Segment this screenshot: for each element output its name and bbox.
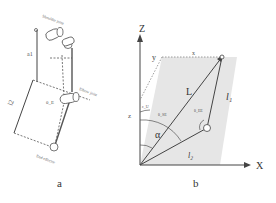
shoulder-joint-label: Shoulder joint bbox=[42, 13, 66, 26]
z-dim-label: z bbox=[128, 112, 131, 120]
end-effector-label: End effector bbox=[36, 153, 57, 165]
upper-arm-label: a1 bbox=[27, 51, 33, 57]
elbow-angle-label: θ_E bbox=[46, 100, 54, 105]
theta-ee-label: θ_EE bbox=[194, 108, 203, 113]
elbow-joint-label: Elbow joint bbox=[79, 86, 99, 97]
theta-u-label: ε_U bbox=[142, 104, 149, 109]
forearm-label: l2 bbox=[6, 98, 16, 106]
axis-y-label: y bbox=[152, 53, 156, 62]
L-label: L bbox=[186, 86, 192, 97]
axis-x-label: X bbox=[256, 160, 264, 171]
l1-label: l₁ bbox=[226, 91, 232, 102]
l2-label: l₂ bbox=[188, 151, 193, 160]
alpha-label: α bbox=[155, 129, 161, 140]
kinematic-figure: a Z X y x z L l₁ l₂ α θ_SE θ_EE ε_U b Sh… bbox=[0, 0, 276, 203]
theta-se-label: θ_SE bbox=[158, 112, 167, 117]
panel-a-caption: a bbox=[57, 177, 62, 189]
panel-b-caption: b bbox=[193, 177, 199, 189]
axis-z-label: Z bbox=[139, 23, 145, 34]
x-dim-label: x bbox=[192, 50, 195, 56]
